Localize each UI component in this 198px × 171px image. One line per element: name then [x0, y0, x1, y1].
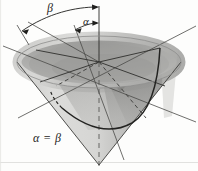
beta-angle-label: β: [47, 2, 53, 14]
alpha-angle-label: α: [83, 16, 89, 27]
alpha-equals-beta-label: α = β: [33, 132, 61, 144]
figure-canvas: [0, 0, 198, 171]
cutting-plane-outside: [160, 48, 178, 118]
conic-section-figure: β α α = β: [0, 0, 198, 171]
